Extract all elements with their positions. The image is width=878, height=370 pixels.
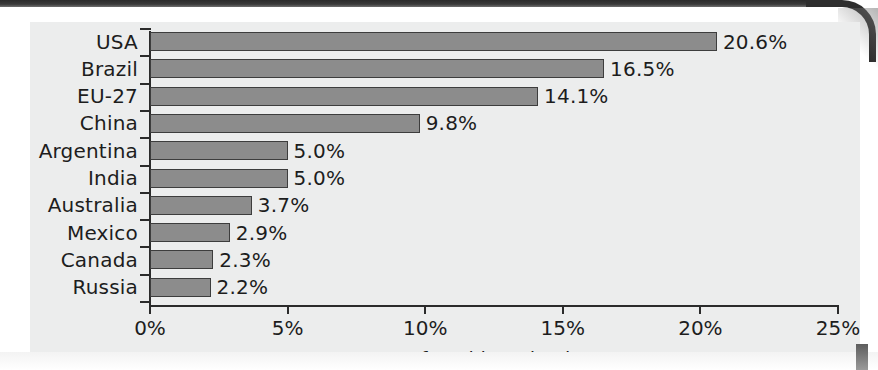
category-label: Canada	[61, 248, 138, 272]
x-axis-line	[150, 305, 838, 307]
bar-value-label: 16.5%	[610, 57, 675, 81]
y-tick	[140, 110, 151, 112]
y-tick	[140, 219, 151, 221]
bar-row: Argentina5.0%	[150, 141, 288, 160]
bar-row: USA20.6%	[150, 32, 717, 51]
category-label: China	[80, 111, 138, 135]
bar-value-label: 2.2%	[217, 275, 269, 299]
x-tick	[149, 305, 151, 314]
bar	[150, 223, 230, 242]
category-label: India	[88, 166, 138, 190]
bar	[150, 114, 420, 133]
bar-row: EU-2714.1%	[150, 87, 538, 106]
x-tick	[287, 305, 289, 314]
bar-row: Canada2.3%	[150, 250, 213, 269]
plot-area: USA20.6%Brazil16.5%EU-2714.1%China9.8%Ar…	[30, 22, 860, 355]
bar	[150, 32, 717, 51]
bar-row: Australia3.7%	[150, 196, 252, 215]
x-tick-label: 5%	[272, 316, 304, 340]
category-label: Russia	[72, 275, 138, 299]
bar-row: India5.0%	[150, 169, 288, 188]
bar-value-label: 14.1%	[544, 84, 609, 108]
bar-row: Brazil16.5%	[150, 59, 604, 78]
bar	[150, 169, 288, 188]
bar	[150, 87, 538, 106]
bar-value-label: 2.3%	[219, 248, 271, 272]
category-label: EU-27	[77, 84, 138, 108]
bar	[150, 59, 604, 78]
x-tick-label: 15%	[541, 316, 585, 340]
x-tick	[562, 305, 564, 314]
bar-value-label: 3.7%	[258, 193, 310, 217]
x-tick-label: 10%	[403, 316, 447, 340]
bar	[150, 278, 211, 297]
bar-row: Mexico2.9%	[150, 223, 230, 242]
y-tick	[140, 274, 151, 276]
bar	[150, 141, 288, 160]
y-tick	[140, 137, 151, 139]
x-tick-label: 20%	[678, 316, 722, 340]
bar-row: China9.8%	[150, 114, 420, 133]
y-tick	[140, 83, 151, 85]
category-label: USA	[96, 30, 138, 54]
y-tick	[140, 28, 151, 30]
bar-value-label: 20.6%	[723, 30, 788, 54]
y-tick	[140, 55, 151, 57]
page-bottom-fade	[0, 352, 878, 370]
x-tick	[699, 305, 701, 314]
bar-value-label: 9.8%	[426, 111, 478, 135]
category-label: Mexico	[67, 221, 138, 245]
x-tick	[837, 305, 839, 314]
bar-row: Russia2.2%	[150, 278, 211, 297]
bar	[150, 196, 252, 215]
y-tick	[140, 301, 151, 303]
x-tick-label: 0%	[134, 316, 166, 340]
bar-value-label: 5.0%	[294, 166, 346, 190]
scan-top-band	[0, 0, 840, 7]
y-tick	[140, 246, 151, 248]
category-label: Argentina	[39, 139, 138, 163]
bar-value-label: 2.9%	[236, 221, 288, 245]
category-label: Brazil	[81, 57, 138, 81]
category-label: Australia	[48, 193, 138, 217]
x-tick-label: 25%	[816, 316, 860, 340]
bar	[150, 250, 213, 269]
x-tick	[424, 305, 426, 314]
page-edge-mark	[856, 344, 868, 370]
bar-value-label: 5.0%	[294, 139, 346, 163]
y-tick	[140, 192, 151, 194]
y-tick	[140, 165, 151, 167]
bar-chart-panel: USA20.6%Brazil16.5%EU-2714.1%China9.8%Ar…	[30, 22, 860, 355]
